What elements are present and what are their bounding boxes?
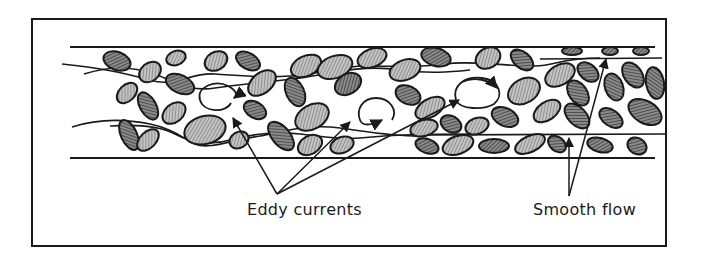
smooth-flow-label: Smooth flow <box>533 200 636 219</box>
blood-cells <box>101 43 667 159</box>
eddy-swirl-2 <box>359 98 394 125</box>
eddy-currents-label: Eddy currents <box>247 200 362 219</box>
eddy-swirl-3 <box>455 78 499 108</box>
smooth-lane-top <box>540 58 662 59</box>
blood-vessel-diagram <box>0 0 721 260</box>
